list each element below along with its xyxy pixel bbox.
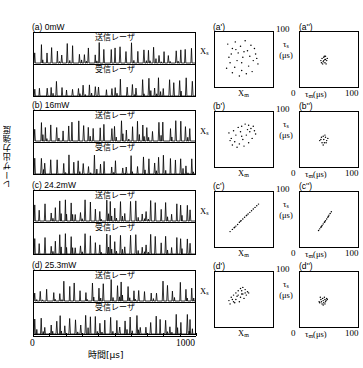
scatter-d2-xmin: 0 [291,328,296,338]
x-axis-tick [163,333,164,336]
scatter-panel-d1 [214,271,274,328]
x-axis-tick [49,333,50,336]
scatter-b1-ylabel: Xs [200,126,208,136]
x-axis-tick [131,333,132,336]
waveform-master-a: 送信レーザ [34,33,195,65]
waveform-master-c: 送信レーザ [34,191,195,223]
scatter-a2-xmin: 0 [291,88,296,98]
scatter-b2-xlabel: τm(μs) [305,169,327,179]
scatter-panel-b1 [214,111,274,168]
scatter-label-d2: (d'') [299,261,313,271]
x-axis-tick [66,333,67,336]
scatter-a1-ylabel: Xs [200,46,208,56]
x-axis-line [33,336,196,337]
scatter-d2-xmax: 100 [345,328,359,338]
scatter-panel-d2 [299,271,359,328]
scatter-c1-xlabel: Xm [238,248,249,258]
scatter-b1-xlabel: Xm [238,168,249,178]
scatter-c2-xlabel: τm(μs) [305,249,327,259]
waveform-slave-c: 受信レーザ [34,223,195,255]
x-axis-max: 1000 [176,338,195,348]
waveform-slave-trace-a [34,65,195,97]
x-axis-tick [147,333,148,336]
scatter-panel-c1 [214,191,274,248]
scatter-d1-xlabel: Xm [238,328,249,338]
scatter-a2-xlabel: τm(μs) [305,89,327,99]
scatter-d1-ylabel: Xs [200,286,208,296]
scatter-b-tau-s-label: τs(μs) [275,120,297,140]
scatter-d-ymax: 100 [276,264,290,274]
scatter-b2-xmax: 100 [345,168,359,178]
waveform-slave-trace-b [34,143,195,175]
scatter-a-ymax: 100 [276,24,290,34]
x-axis-tick [180,333,181,336]
panel-label-c: (c) 24.2mW [32,180,76,190]
scatter-c-ymax: 100 [276,184,290,194]
scatter-label-b2: (b'') [299,101,313,111]
waveform-master-trace-b [34,111,195,142]
waveform-slave-b: 受信レーザ [34,143,195,175]
scatter-label-c1: (c') [213,181,225,191]
waveform-master-trace-d [34,271,195,302]
scatter-c2-xmin: 0 [291,248,296,258]
panel-label-b: (b) 16mW [32,100,69,110]
x-axis-tick [115,333,116,336]
waveform-panel-d: 送信レーザ 受信レーザ [33,270,196,335]
waveform-master-trace-a [34,33,195,64]
scatter-a2-xmax: 100 [345,88,359,98]
x-axis-min: 0 [30,338,35,348]
scatter-label-d1: (d') [213,261,225,271]
waveform-panel-b: 送信レーザ 受信レーザ [33,110,196,175]
waveform-slave-trace-d [34,303,195,335]
x-axis-label: 時間[μs] [88,348,123,361]
panel-label-a: (a) 0mW [32,22,65,32]
scatter-panel-b2 [299,111,359,168]
x-axis-tick [33,333,34,336]
scatter-a-tau-s-label: τs(μs) [275,40,297,60]
waveform-panel-c: 送信レーザ 受信レーザ [33,190,196,255]
waveform-panel-a: 送信レーザ 受信レーザ [33,32,196,97]
scatter-d-tau-s-label: τs(μs) [275,280,297,300]
scatter-label-b1: (b') [213,101,225,111]
waveform-slave-d: 受信レーザ [34,303,195,335]
scatter-c2-xmax: 100 [345,248,359,258]
scatter-label-c2: (c'') [299,181,312,191]
y-axis-label: レーザ出力強度 [2,125,16,188]
waveform-master-d: 送信レーザ [34,271,195,303]
waveform-slave-a: 受信レーザ [34,65,195,97]
scatter-c-tau-s-label: τs(μs) [275,200,297,220]
scatter-a1-xlabel: Xm [238,88,249,98]
x-axis-tick [82,333,83,336]
waveform-master-trace-c [34,191,195,222]
x-axis-tick [98,333,99,336]
waveform-master-b: 送信レーザ [34,111,195,143]
waveform-slave-trace-c [34,223,195,255]
scatter-panel-a1 [214,31,274,88]
scatter-panel-a2 [299,31,359,88]
x-axis-tick [196,333,197,336]
scatter-b-ymax: 100 [276,104,290,114]
panel-label-d: (d) 25.3mW [32,260,76,270]
scatter-c1-ylabel: Xs [200,206,208,216]
scatter-panel-c2 [299,191,359,248]
figure-root: レーザ出力強度 (a) 0mW 送信レーザ 受信レーザ (a') Xs Xm 1… [0,0,363,368]
scatter-b2-xmin: 0 [291,168,296,178]
scatter-d2-xlabel: τm(μs) [305,329,327,339]
